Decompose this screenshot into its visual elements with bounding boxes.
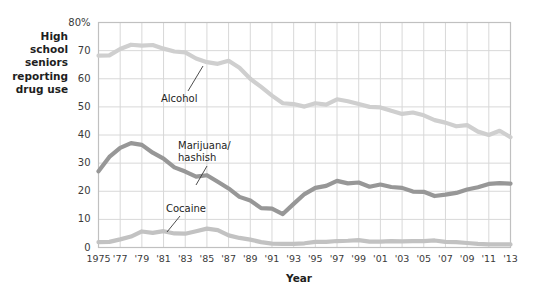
- series-line-alcohol: [99, 45, 511, 138]
- gridlines: [99, 23, 511, 248]
- series-label-alcohol: Alcohol: [161, 93, 197, 105]
- data-series-layer: [99, 45, 511, 245]
- plot-area: [0, 0, 535, 294]
- series-line-cocaine: [99, 229, 511, 245]
- drug-use-line-chart: High school seniors reporting drug use Y…: [0, 0, 535, 294]
- series-label-marijuana: Marijuana/ hashish: [178, 140, 231, 163]
- leader-cocaine: [167, 216, 180, 232]
- series-line-marijuana-hashish: [99, 143, 511, 214]
- series-label-cocaine: Cocaine: [166, 203, 206, 215]
